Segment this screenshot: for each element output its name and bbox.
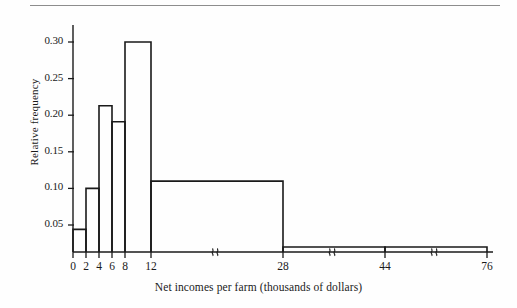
- histogram-figure: Relative frequency Net incomes per farm …: [0, 0, 517, 308]
- histogram-bar-8-12: [125, 42, 151, 252]
- x-tick-label-28: 28: [268, 260, 298, 272]
- y-tick-label-0.05: 0.05: [23, 217, 63, 229]
- y-tick-label-0.30: 0.30: [23, 34, 63, 46]
- histogram-bar-28-44: [283, 247, 385, 252]
- histogram-bar-44-76: [385, 247, 487, 252]
- histogram-bar-12-28: [151, 181, 283, 252]
- y-axis-title: Relative frequency: [28, 42, 40, 202]
- x-tick-label-76: 76: [472, 260, 502, 272]
- histogram-bar-0-2: [73, 229, 86, 252]
- x-axis-title: Net incomes per farm (thousands of dolla…: [0, 281, 517, 293]
- y-tick-label-0.25: 0.25: [23, 71, 63, 83]
- histogram-bar-2-4: [86, 188, 99, 252]
- x-tick-label-44: 44: [370, 260, 400, 272]
- y-tick-label-0.20: 0.20: [23, 107, 63, 119]
- x-tick-label-12: 12: [136, 260, 166, 272]
- histogram-bar-4-6: [99, 106, 112, 252]
- histogram-bar-6-8: [112, 122, 125, 252]
- y-tick-label-0.10: 0.10: [23, 180, 63, 192]
- y-tick-label-0.15: 0.15: [23, 144, 63, 156]
